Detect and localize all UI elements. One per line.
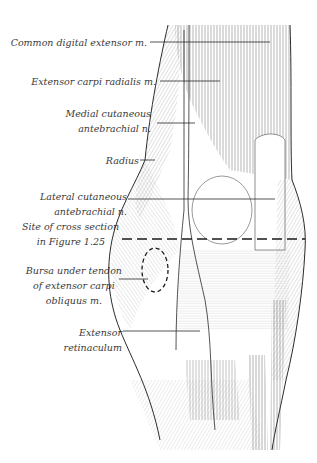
carpus-illustration: [0, 0, 317, 463]
